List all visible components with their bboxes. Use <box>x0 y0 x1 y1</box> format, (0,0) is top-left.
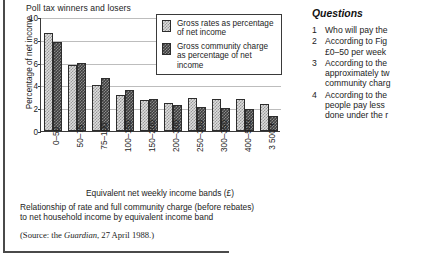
questions-panel: Questions 1Who will pay the2According to… <box>312 8 447 122</box>
question-number: 1 <box>312 25 319 35</box>
x-tick-cell: 250–300 <box>184 134 208 180</box>
y-axis-label: Percentage of net income <box>25 8 34 118</box>
source-prefix: (Source: the <box>20 230 64 240</box>
question-body: According to thepeople pay lessdone unde… <box>325 90 388 121</box>
question-line: community charg <box>325 78 390 88</box>
x-axis-tick: 300–350 <box>220 120 229 152</box>
x-tick-cell: 75–100 <box>88 134 112 180</box>
y-axis-tick: 10 <box>29 14 38 23</box>
question-line: According to the <box>325 90 388 100</box>
question-number: 2 <box>312 36 319 57</box>
x-axis-tick: 200–300 <box>172 120 181 152</box>
x-axis-tick: 3 500 + <box>268 122 277 150</box>
x-axis-label: Equivalent net weekly income bands (£) <box>40 188 280 198</box>
question-item: 4According to thepeople pay lessdone und… <box>312 90 447 121</box>
y-axis-tick-mark <box>38 132 41 133</box>
dark-hatched-swatch-icon <box>162 43 171 55</box>
x-axis-tick: 150–200 <box>148 120 157 152</box>
question-line: people pay less <box>325 100 388 110</box>
bar-charge <box>53 42 62 131</box>
bar-rates <box>68 65 77 131</box>
caption-line-2: to net household income by equivalent in… <box>20 212 255 222</box>
bar-group <box>89 17 113 131</box>
x-axis-tick: 250–300 <box>196 120 205 152</box>
bar-group <box>113 17 137 131</box>
question-line: According to Fig <box>325 36 387 46</box>
x-axis-tick: 75–100 <box>100 122 109 149</box>
figure-caption: Relationship of rate and full community … <box>20 202 255 222</box>
x-tick-cell: 0–50 <box>40 134 64 180</box>
caption-line-1: Relationship of rate and full community … <box>20 202 255 212</box>
question-line: done under the r <box>325 110 388 120</box>
legend-entry-community-charge: Gross community charge as percentage of … <box>162 42 276 70</box>
page-bottom-rule <box>3 251 229 253</box>
page: Poll tax winners and losers Percentage o… <box>0 0 447 263</box>
figure-poll-tax-chart: Poll tax winners and losers Percentage o… <box>10 2 300 250</box>
bar-rates <box>44 33 53 131</box>
x-tick-cell: 50–75 <box>64 134 88 180</box>
figure-source: (Source: the Guardian, 27 April 1988.) <box>20 230 270 240</box>
x-axis-tick: 50–75 <box>76 125 85 148</box>
source-publication: Guardian <box>64 230 97 240</box>
bar-charge <box>77 63 86 131</box>
chart-title: Poll tax winners and losers <box>26 3 131 13</box>
question-body: According to theapproximately twcommunit… <box>325 58 390 89</box>
question-item: 3According to theapproximately twcommuni… <box>312 58 447 89</box>
legend-label-rates: Gross rates as percentage of net income <box>177 19 276 38</box>
question-body: According to Fig£0–50 per week <box>325 36 387 57</box>
light-hatched-swatch-icon <box>162 20 171 32</box>
question-line: approximately tw <box>325 68 390 78</box>
question-item: 2According to Fig£0–50 per week <box>312 36 447 57</box>
bar-group <box>65 17 89 131</box>
x-axis-tick: 400–500 <box>244 120 253 152</box>
x-tick-cell: 200–300 <box>160 134 184 180</box>
question-item: 1Who will pay the <box>312 25 447 35</box>
legend-label-community-charge: Gross community charge as percentage of … <box>177 42 276 70</box>
x-axis-tick: 0–50 <box>52 127 61 145</box>
page-left-rule <box>3 0 5 251</box>
x-tick-cell: 300–350 <box>208 134 232 180</box>
x-tick-cell: 3 500 + <box>256 134 280 180</box>
legend-entry-rates: Gross rates as percentage of net income <box>162 19 276 38</box>
questions-heading: Questions <box>312 8 447 19</box>
question-line: Who will pay the <box>325 25 388 35</box>
x-axis-tick-labels: 0–5050–7575–100100–150150–200200–300250–… <box>40 134 280 180</box>
question-line: According to the <box>325 58 390 68</box>
question-number: 3 <box>312 58 319 89</box>
bar-group <box>41 17 65 131</box>
source-suffix: , 27 April 1988.) <box>97 230 154 240</box>
question-line: £0–50 per week <box>325 47 387 57</box>
x-tick-cell: 400–500 <box>232 134 256 180</box>
x-tick-cell: 150–200 <box>136 134 160 180</box>
x-axis-tick: 100–150 <box>124 120 133 152</box>
question-number: 4 <box>312 90 319 121</box>
questions-list: 1Who will pay the2According to Fig£0–50 … <box>312 25 447 121</box>
question-body: Who will pay the <box>325 25 388 35</box>
chart-legend: Gross rates as percentage of net income … <box>156 14 282 75</box>
x-tick-cell: 100–150 <box>112 134 136 180</box>
